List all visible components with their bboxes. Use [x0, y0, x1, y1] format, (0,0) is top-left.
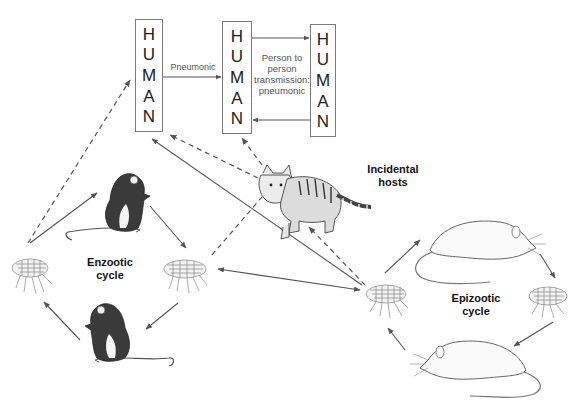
flea-icon [12, 259, 52, 294]
human-letter: N [231, 110, 243, 127]
human-letter: M [316, 72, 330, 89]
arrow-flea-exchange [218, 269, 360, 290]
label-line: Enzootic [80, 256, 140, 269]
flea-icon [366, 285, 408, 318]
person-to-person-label: Person to person transmission: pneumonic [254, 52, 310, 96]
label-line: transmission: [254, 74, 310, 85]
flea-icon [529, 287, 567, 318]
human-letter: H [231, 28, 243, 45]
human-letter: U [317, 51, 329, 68]
pneumonic-label: Pneumonic [168, 62, 218, 73]
human-letter: U [143, 46, 155, 63]
human-letter: N [143, 108, 155, 125]
label-line: pneumonic [254, 85, 310, 96]
human-letter: A [143, 88, 154, 105]
mouse-icon [85, 304, 174, 366]
arrow-flea-to-mouse-top [30, 193, 97, 243]
label-line: Person to [254, 52, 310, 63]
arrow-flea-to-rat-bottom [514, 322, 553, 346]
human-letter: M [230, 69, 244, 86]
enzootic-cycle-label: Enzootic cycle [80, 256, 140, 282]
label-line: Epizootic [444, 292, 508, 305]
human-letter: M [142, 67, 156, 84]
label-line: cycle [80, 269, 140, 282]
arrow-rat-bottom-to-flea [388, 328, 405, 350]
label-line: hosts [358, 176, 428, 189]
human-box-2: H U M A N [222, 21, 252, 134]
arrow-cat-to-human2 [242, 138, 262, 165]
arrow-mouse-top-to-flea [150, 206, 186, 248]
label-line: person [254, 63, 310, 74]
label-line: Incidental [358, 163, 428, 176]
flea-icon [164, 260, 207, 293]
epizootic-cycle-label: Epizootic cycle [444, 292, 508, 318]
incidental-hosts-label: Incidental hosts [358, 163, 428, 189]
human-letter: N [317, 113, 329, 130]
human-letter: A [231, 90, 242, 107]
label-line: cycle [444, 305, 508, 318]
human-letter: H [143, 26, 155, 43]
human-box-1: H U M A N [135, 19, 163, 132]
arrow-epiflea-to-cat [309, 227, 365, 285]
human-box-3: H U M A N [310, 24, 336, 137]
arrow-epiflea-to-rat-top [385, 240, 420, 273]
arrow-rat-top-to-flea [540, 254, 555, 278]
human-letter: A [317, 93, 328, 110]
rat-icon [410, 341, 540, 397]
plague-cycle-diagram: H U M A N H U M A N H U M A N Pneumonic … [0, 0, 587, 407]
human-letter: H [317, 31, 329, 48]
human-letter: U [231, 48, 243, 65]
arrow-mouse-bottom-to-flea [44, 302, 80, 340]
rat-icon [416, 221, 546, 284]
cat-icon [259, 165, 371, 239]
arrow-flea-to-mouse-bottom [146, 303, 178, 329]
